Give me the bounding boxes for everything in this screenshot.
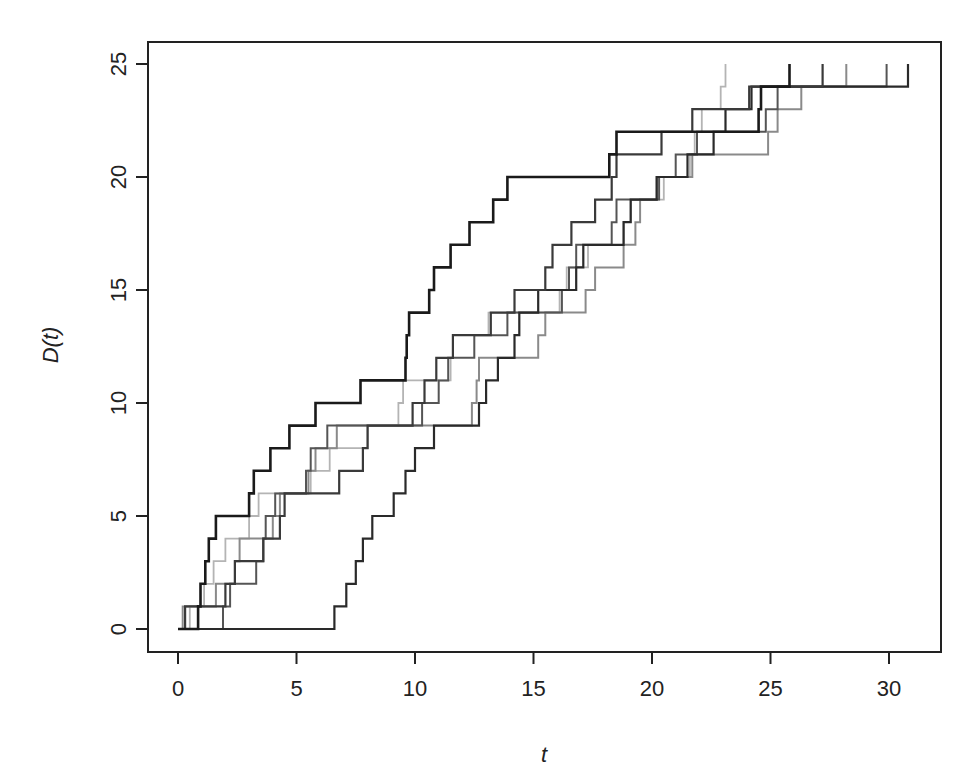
series-layer (178, 64, 908, 629)
x-tick-label: 0 (172, 676, 184, 701)
series-curve-6 (178, 64, 726, 629)
y-tick-label: 25 (106, 52, 131, 76)
y-tick-label: 20 (106, 165, 131, 189)
x-tick-label: 10 (403, 676, 427, 701)
plot-frame (148, 42, 941, 652)
y-axis: 0510152025 (106, 52, 148, 635)
y-tick-label: 15 (106, 278, 131, 302)
x-tick-label: 20 (640, 676, 664, 701)
x-tick-label: 15 (521, 676, 545, 701)
series-curve-3 (178, 64, 908, 629)
x-tick-label: 5 (290, 676, 302, 701)
y-axis-label: D(t) (38, 327, 63, 364)
y-tick-label: 0 (106, 623, 131, 635)
x-tick-label: 30 (877, 676, 901, 701)
y-tick-label: 5 (106, 510, 131, 522)
x-tick-label: 25 (758, 676, 782, 701)
series-curve-2 (178, 64, 823, 629)
x-axis-label: t (541, 742, 548, 767)
series-curve-5 (178, 64, 846, 629)
step-chart: 051015202530 0510152025 t D(t) (0, 0, 974, 770)
y-tick-label: 10 (106, 391, 131, 415)
series-curve-4 (178, 64, 887, 629)
x-axis: 051015202530 (172, 652, 901, 701)
